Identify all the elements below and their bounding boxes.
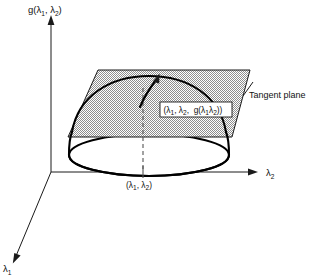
lambda1-axis (13, 172, 51, 264)
lambda1-axis-arrowhead (13, 253, 21, 264)
lambda2-axis-label: λ2 (266, 167, 275, 180)
g-axis-arrowhead (48, 15, 55, 25)
g-axis-label: g(λ1, λ2) (28, 4, 62, 17)
lambda2-axis-arrowhead (248, 169, 258, 176)
surface-point-label-group: (λ1, λ2, g(λ1λ2)) (160, 102, 232, 117)
tangent-plane-diagram: (λ1, λ2, g(λ1λ2)) Tangent plane (λ1, λ2)… (0, 0, 311, 276)
base-point-label: (λ1, λ2) (126, 180, 152, 191)
lambda1-axis-label: λ1 (3, 263, 12, 276)
figure-canvas: (λ1, λ2, g(λ1λ2)) Tangent plane (λ1, λ2)… (0, 0, 311, 276)
g-axis (48, 15, 55, 172)
tangent-plane-label: Tangent plane (249, 90, 306, 100)
